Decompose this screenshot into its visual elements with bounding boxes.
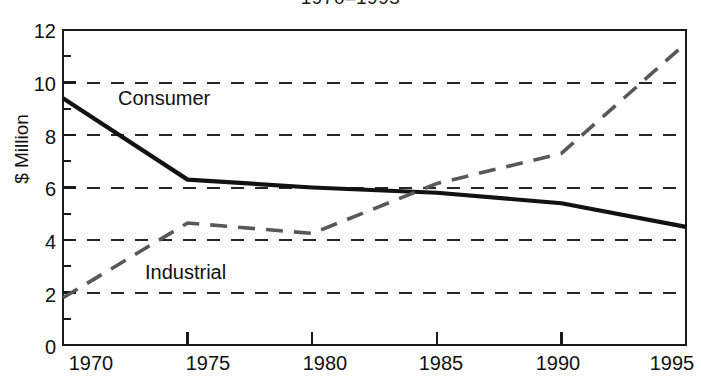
series-annotation-consumer: Consumer — [118, 88, 210, 108]
x-tick-label-1975: 1975 — [148, 352, 268, 374]
x-tick-label-1980: 1980 — [265, 352, 385, 374]
x-tick-label-1990: 1990 — [498, 352, 618, 374]
chart-figure: 1970–1995 $ Million 12 10 8 6 4 2 0 1970… — [0, 0, 701, 381]
x-tick-label-1970: 1970 — [31, 352, 151, 374]
x-axis-tick-labels: 1970 1975 1980 1985 1990 1995 — [0, 0, 701, 381]
x-tick-label-1995: 1995 — [612, 352, 701, 374]
series-annotation-industrial: Industrial — [145, 262, 226, 282]
x-tick-label-1985: 1985 — [381, 352, 501, 374]
